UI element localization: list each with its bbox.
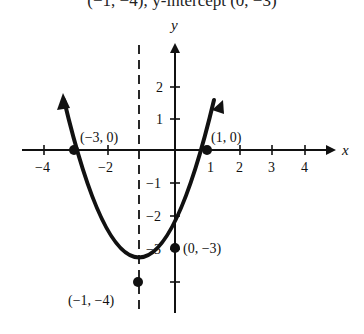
y-tick-label: −1 [146,176,161,191]
parabola-graph: −4 −2 1 2 3 4 2 1 −1 −2 −3 x y (−3, 0) (… [0,0,364,334]
x-tick-label: −2 [98,160,113,175]
point-label-vertex: (−1, −4) [68,293,114,309]
x-axis-label: x [341,142,349,158]
x-tick-label: 2 [236,160,243,175]
point-left-x-intercept [69,145,79,155]
y-tick-label: 2 [156,80,163,95]
y-axis-label: y [169,17,178,33]
point-right-x-intercept [202,145,212,155]
x-tick-label: 4 [301,160,308,175]
x-tick-label: −4 [35,160,50,175]
y-tick-label: 1 [156,112,163,127]
point-label-left-x-intercept: (−3, 0) [80,130,119,146]
x-tick-label: 1 [207,160,214,175]
curve-arrow-left-icon [57,93,70,110]
point-label-y-intercept: (0, −3) [183,241,222,257]
point-vertex [133,277,143,287]
point-label-right-x-intercept: (1, 0) [211,130,242,146]
point-y-intercept [170,243,180,253]
x-tick-label: 3 [268,160,275,175]
y-tick-label: −2 [146,209,161,224]
